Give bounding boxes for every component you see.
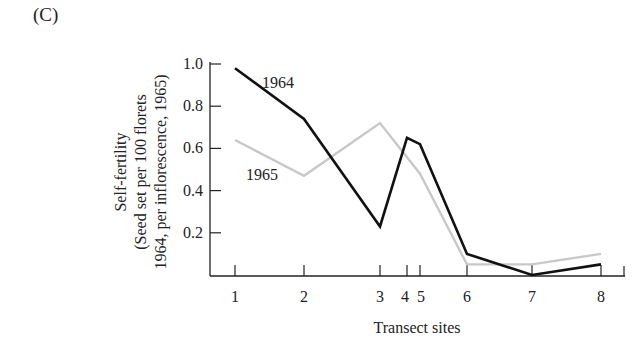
y-tick-label: 0.8 bbox=[183, 97, 203, 114]
x-tick-label: 1 bbox=[231, 288, 239, 305]
x-tick-label: 2 bbox=[300, 288, 308, 305]
x-tick-label: 7 bbox=[528, 288, 536, 305]
y-tick-label: 1.0 bbox=[183, 55, 203, 72]
x-axis-title: Transect sites bbox=[374, 319, 461, 336]
series-label-1965: 1965 bbox=[246, 166, 278, 183]
x-tick-label: 5 bbox=[417, 288, 425, 305]
x-tick-label: 8 bbox=[597, 288, 605, 305]
y-tick-label: 0.4 bbox=[183, 182, 203, 199]
y-tick-label: 0.6 bbox=[183, 139, 203, 156]
line-chart: 1.00.80.60.40.212345678Transect sitesSel… bbox=[0, 0, 642, 363]
y-axis-title-line: (Seed set per 100 florets bbox=[132, 94, 150, 250]
x-tick-label: 6 bbox=[463, 288, 471, 305]
y-tick-label: 0.2 bbox=[183, 224, 203, 241]
x-tick-label: 4 bbox=[401, 288, 409, 305]
series-label-1964: 1964 bbox=[262, 74, 294, 91]
y-axis-title-line: 1964, per inflorescence, 1965) bbox=[152, 74, 170, 269]
x-tick-label: 3 bbox=[376, 288, 384, 305]
y-axis-title-line: Self-fertility bbox=[112, 132, 130, 211]
